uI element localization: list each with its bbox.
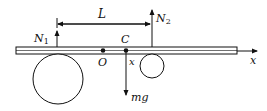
small-roller — [140, 54, 164, 78]
label-N2: N2 — [155, 12, 171, 26]
large-roller — [33, 54, 83, 104]
origin-point — [101, 48, 106, 53]
label-N2-sub: 2 — [166, 17, 171, 26]
label-x-position: x — [129, 56, 135, 67]
label-x-axis: x — [250, 54, 257, 67]
label-N1-main: N — [33, 32, 44, 45]
label-L: L — [97, 7, 106, 21]
label-N1-sub: 1 — [44, 37, 49, 46]
free-body-diagram: L N1 N2 C O x mg x — [0, 0, 267, 111]
label-N2-main: N — [155, 12, 166, 25]
label-O: O — [98, 56, 107, 69]
label-mg: mg — [131, 91, 148, 104]
center-of-mass-point — [124, 48, 129, 53]
label-N1: N1 — [33, 32, 49, 46]
label-C: C — [121, 33, 130, 46]
